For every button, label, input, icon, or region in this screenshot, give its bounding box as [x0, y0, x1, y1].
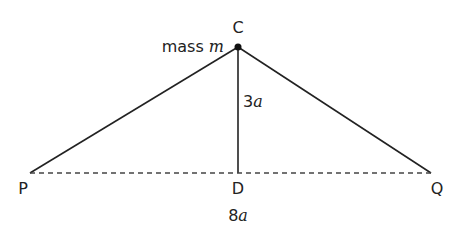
label-c: C [232, 18, 243, 37]
mass-label: mass m [162, 37, 224, 56]
line-cq [238, 47, 431, 173]
label-d: D [232, 179, 244, 198]
height-label: 3a [243, 92, 263, 111]
line-pc [30, 47, 238, 173]
label-p: P [18, 179, 28, 198]
mass-point-c [235, 44, 242, 51]
base-label: 8a [228, 206, 248, 225]
triangle-diagram: C P Q D mass m 3a 8a [0, 0, 453, 240]
label-q: Q [431, 179, 444, 198]
